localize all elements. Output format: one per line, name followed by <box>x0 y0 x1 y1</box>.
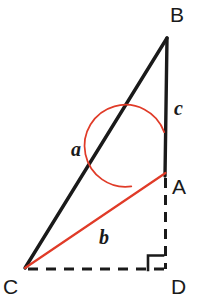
side-label-a: a <box>71 139 81 159</box>
vertex-label-D: D <box>171 276 186 297</box>
vertex-label-A: A <box>172 176 186 197</box>
segment-CA-side-b <box>25 173 166 268</box>
segment-BA-side-c <box>165 38 167 176</box>
geometry-canvas <box>0 0 203 300</box>
geometry-figure: B A C D a b c <box>0 0 203 300</box>
vertex-label-C: C <box>3 276 18 297</box>
segment-BC-side-a <box>25 38 167 268</box>
side-label-c: c <box>174 98 183 118</box>
angle-arc-BAC <box>85 105 165 187</box>
side-label-b: b <box>99 227 109 247</box>
vertex-label-B: B <box>170 4 184 25</box>
